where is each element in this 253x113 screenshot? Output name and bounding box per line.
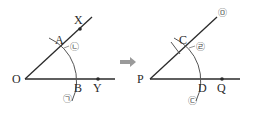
label-O: O [12, 72, 21, 86]
marker-leader-4 [189, 46, 195, 48]
marker-1-icon: ㉠ [63, 94, 72, 104]
arrow-shaft [120, 60, 130, 64]
label-A: A [55, 33, 64, 47]
label-Y: Y [93, 81, 102, 95]
label-Q: Q [217, 81, 226, 95]
label-C: C [179, 33, 187, 47]
marker-5-icon: ㉤ [218, 8, 227, 18]
left-figure: O A B X Y ㉠ ㉡ [12, 13, 115, 104]
label-B: B [74, 81, 82, 95]
angle-copy-diagram: O A B X Y ㉠ ㉡ P C D Q ㉢ ㉣ ㉤ [0, 0, 253, 113]
label-D: D [198, 81, 207, 95]
right-figure: P C D Q ㉢ ㉣ ㉤ [137, 8, 240, 106]
arrow-right-icon [130, 57, 136, 67]
label-X: X [74, 13, 83, 27]
marker-3-icon: ㉢ [188, 96, 197, 106]
label-P: P [137, 72, 144, 86]
point-X-dot [78, 27, 82, 31]
marker-4-icon: ㉣ [196, 42, 205, 52]
transform-arrow [120, 57, 136, 67]
marker-leader-2 [64, 46, 69, 48]
marker-2-icon: ㉡ [70, 42, 79, 52]
ray-P-copied [150, 17, 217, 79]
